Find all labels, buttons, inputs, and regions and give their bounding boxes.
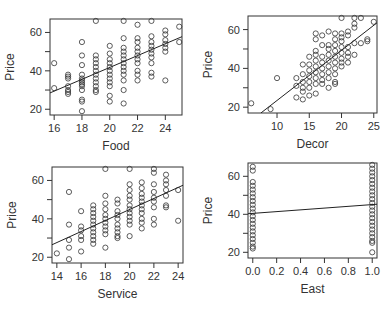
- data-point: [294, 95, 299, 100]
- data-point: [79, 53, 84, 58]
- y-axis-label: Price: [201, 51, 215, 79]
- y-tick-label: 60: [228, 24, 240, 36]
- data-point: [339, 39, 344, 44]
- data-point: [326, 70, 331, 75]
- data-point: [163, 78, 168, 83]
- x-tick-label: 0.6: [317, 265, 332, 277]
- y-tick-label: 60: [32, 174, 44, 186]
- data-point: [115, 201, 120, 206]
- regression-line: [50, 37, 182, 93]
- data-point: [320, 72, 325, 77]
- data-point: [358, 41, 363, 46]
- data-point: [107, 93, 112, 98]
- data-point: [163, 32, 168, 37]
- data-point: [127, 187, 132, 192]
- data-point: [135, 22, 140, 27]
- data-point: [107, 43, 112, 48]
- x-tick-label: 16: [48, 122, 60, 134]
- data-point: [139, 210, 144, 215]
- data-point: [332, 31, 337, 36]
- data-point: [103, 207, 108, 212]
- x-tick-label: 18: [99, 270, 111, 282]
- data-point: [66, 189, 71, 194]
- data-point: [332, 48, 337, 53]
- data-point: [313, 31, 318, 36]
- data-point: [300, 97, 305, 102]
- data-point: [307, 79, 312, 84]
- data-point: [313, 64, 318, 69]
- x-tick-label: 14: [51, 270, 63, 282]
- data-point: [79, 62, 84, 67]
- scatterplot-matrix-figure: 1618202224204060FoodPrice10152025204060D…: [0, 0, 389, 315]
- data-point: [307, 54, 312, 59]
- data-point: [139, 180, 144, 185]
- data-point: [313, 81, 318, 86]
- data-point: [300, 62, 305, 67]
- data-point: [177, 24, 182, 29]
- x-tick-label: 24: [172, 270, 184, 282]
- data-point: [313, 91, 318, 96]
- data-point: [127, 182, 132, 187]
- x-axis-label: Decor: [296, 137, 328, 151]
- data-point: [313, 52, 318, 57]
- x-tick-label: 16: [75, 270, 87, 282]
- y-axis-label: Price: [201, 197, 215, 225]
- data-point: [103, 232, 108, 237]
- data-point: [149, 61, 154, 66]
- data-point: [66, 222, 71, 227]
- panel-food: 1618202224204060FoodPrice: [3, 18, 182, 153]
- x-tick-label: 24: [159, 122, 171, 134]
- data-point: [151, 189, 156, 194]
- x-tick-label: 20: [104, 122, 116, 134]
- data-point: [326, 85, 331, 90]
- data-point: [121, 36, 126, 41]
- x-axis-label: East: [300, 282, 325, 296]
- data-point: [294, 75, 299, 80]
- data-point: [307, 62, 312, 67]
- x-tick-label: 20: [124, 270, 136, 282]
- data-point: [139, 226, 144, 231]
- data-point: [326, 75, 331, 80]
- y-tick-label: 40: [30, 65, 42, 77]
- data-point: [163, 49, 168, 54]
- data-point: [121, 87, 126, 92]
- x-tick-label: 15: [303, 120, 315, 132]
- panel-decor: 10152025204060DecorPrice: [201, 15, 380, 151]
- data-point: [300, 72, 305, 77]
- x-tick-label: 0.0: [245, 265, 260, 277]
- data-point: [66, 245, 71, 250]
- data-points: [52, 18, 182, 113]
- data-point: [326, 64, 331, 69]
- data-point: [332, 72, 337, 77]
- y-tick-label: 20: [228, 101, 240, 113]
- regression-line: [261, 23, 377, 113]
- x-axis-label: Service: [97, 287, 137, 301]
- data-point: [127, 234, 132, 239]
- data-point: [151, 170, 156, 175]
- data-point: [103, 193, 108, 198]
- data-point: [320, 81, 325, 86]
- data-point: [79, 109, 84, 114]
- y-axis-label: Price: [5, 201, 19, 229]
- data-point: [127, 222, 132, 227]
- data-point: [313, 58, 318, 63]
- x-tick-label: 0.8: [341, 265, 356, 277]
- data-point: [151, 222, 156, 227]
- regression-line: [248, 204, 377, 214]
- x-tick-label: 20: [335, 120, 347, 132]
- y-tick-label: 20: [30, 103, 42, 115]
- x-tick-label: 10: [271, 120, 283, 132]
- data-point: [151, 216, 156, 221]
- data-point: [332, 37, 337, 42]
- data-point: [127, 197, 132, 202]
- data-point: [139, 220, 144, 225]
- x-tick-label: 25: [368, 120, 380, 132]
- x-tick-label: 0.2: [269, 265, 284, 277]
- data-point: [163, 182, 168, 187]
- data-point: [54, 251, 59, 256]
- data-point: [176, 218, 181, 223]
- data-point: [326, 29, 331, 34]
- data-point: [121, 72, 126, 77]
- panel-service: 141618202224204060ServicePrice: [5, 166, 184, 301]
- data-point: [115, 216, 120, 221]
